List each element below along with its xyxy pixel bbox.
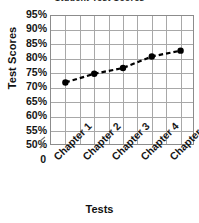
y-axis-tick-label: 55%	[13, 125, 47, 136]
data-point-marker: Chapter 5: 83%	[177, 47, 183, 53]
data-point-marker: Chapter 3: 77%	[120, 64, 126, 70]
data-point-marker: Chapter 2: 75%	[91, 70, 97, 76]
x-axis-title: Tests	[0, 203, 199, 215]
y-axis-tick-label: 75%	[13, 67, 47, 78]
chart-container: Student Test Scores Test Scores 95%90%85…	[0, 0, 199, 223]
y-axis-tick-label: 85%	[13, 38, 47, 49]
y-axis-tick-label: 70%	[13, 81, 47, 92]
y-axis-tick-label: 60%	[13, 110, 47, 121]
x-axis-tick-labels: Chapter 1Chapter 2Chapter 3Chapter 4Chap…	[0, 150, 199, 206]
data-point-marker: Chapter 4: 81%	[149, 53, 155, 59]
data-point-marker: Chapter 1: 72%	[62, 79, 68, 85]
y-axis-tick-label: 80%	[13, 52, 47, 63]
y-axis-tick-label: 90%	[13, 23, 47, 34]
y-axis-tick-label: 95%	[13, 9, 47, 20]
y-axis-tick-label: 65%	[13, 96, 47, 107]
